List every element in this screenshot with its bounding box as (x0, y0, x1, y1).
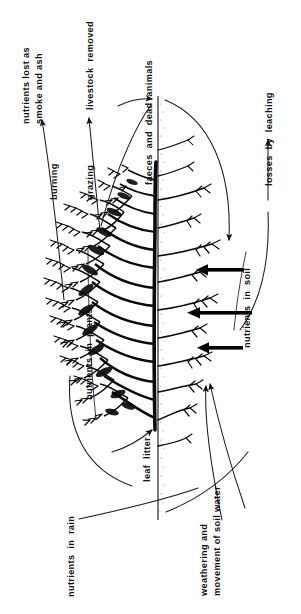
label-losses-by-leaching: losses by leaching (264, 92, 274, 186)
label-faeces-and-dead-animals: faeces and dead animals (144, 60, 154, 185)
label-grazing: grazing (85, 165, 95, 200)
label-weathering-line1: weathering and (199, 524, 209, 597)
label-nutrients-in-rain: nutrients in rain (66, 516, 76, 597)
label-leaf-litter: leaf litter (142, 437, 152, 482)
label-burning: burning (49, 163, 59, 200)
nutrient-cycle-diagram: nutrients lost as smoke and ash burning … (0, 0, 301, 614)
label-weathering-line2: movement of soil water (212, 486, 222, 596)
tree-trunk (154, 162, 156, 430)
label-nutrients-lost-line1: nutrients lost as (21, 47, 31, 124)
label-nutrients-lost-line2: smoke and ash (34, 53, 44, 124)
label-nutrients-in-plants: nutrients in plants (84, 308, 94, 400)
diagram-canvas: nutrients lost as smoke and ash burning … (0, 0, 301, 614)
label-livestock-removed: livestock removed (85, 21, 95, 110)
label-nutrients-in-soil: nutrients in soil (242, 268, 252, 348)
